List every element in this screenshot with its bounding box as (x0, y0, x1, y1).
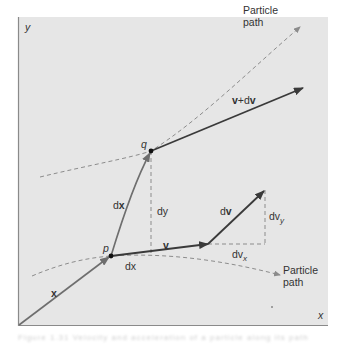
new-velocity-label: v+dv (232, 94, 256, 106)
particle-kinematics-diagram: y x p q x dx v dv v+dv dx dy dvx dvy Par… (0, 0, 341, 346)
dx-component-label: dx (125, 260, 137, 272)
y-axis-label: y (24, 21, 31, 33)
displacement-vector-label: dx (113, 199, 125, 211)
particle-path-lower-label-line1: Particle (283, 264, 318, 276)
particle-path-upper-label-line2: path (243, 16, 264, 28)
x-axis-label: x (317, 309, 324, 321)
point-q-dot (149, 149, 154, 154)
particle-path-upper-label-line1: Particle (243, 4, 278, 16)
point-q-label: q (141, 138, 147, 150)
dy-component-label: dy (157, 205, 169, 217)
velocity-change-label: dv (220, 205, 232, 217)
point-p-label: p (102, 242, 109, 254)
particle-path-lower-label-line2: path (283, 276, 304, 288)
figure-caption: Figure 1.31 Velocity and acceleration of… (18, 334, 328, 342)
velocity-vector-label: v (163, 239, 169, 251)
point-p-dot (109, 254, 114, 259)
stray-dot (271, 306, 273, 308)
position-vector-label: x (51, 287, 57, 299)
